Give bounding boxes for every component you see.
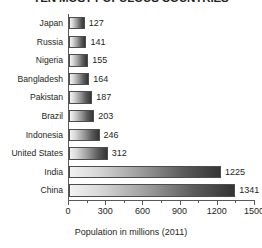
bar <box>69 36 86 48</box>
category-label: India <box>0 163 63 182</box>
bar-track: 1225 <box>69 163 262 182</box>
bar <box>69 147 108 159</box>
bar <box>69 184 235 196</box>
bar-row: United States312 <box>0 144 262 163</box>
bar-track: 312 <box>69 144 262 163</box>
x-axis-tick-label: 900 <box>172 206 187 216</box>
plot-area: Japan127Russia141Nigeria155Bangladesh164… <box>0 14 262 200</box>
x-axis-minor-tick <box>124 200 125 203</box>
bar <box>69 110 94 122</box>
x-axis-tick-label: 600 <box>135 206 150 216</box>
x-axis-minor-tick <box>87 200 88 203</box>
x-axis-tick-label: 1200 <box>207 206 227 216</box>
x-axis-tick-label: 0 <box>65 206 70 216</box>
bar-value-label: 187 <box>96 88 111 107</box>
category-label: Russia <box>0 33 63 52</box>
category-label: China <box>0 181 63 200</box>
bar-track: 141 <box>69 33 262 52</box>
bar-row: Bangladesh164 <box>0 70 262 89</box>
category-label: Pakistan <box>0 88 63 107</box>
bar-row: Japan127 <box>0 14 262 33</box>
bar-value-label: 203 <box>98 107 113 126</box>
bar-track: 203 <box>69 107 262 126</box>
bar <box>69 166 221 178</box>
bar-row: China1341 <box>0 181 262 200</box>
bar-value-label: 246 <box>104 126 119 145</box>
bar <box>69 17 85 29</box>
bar-value-label: 1225 <box>225 163 245 182</box>
bar-row: Indonesia246 <box>0 126 262 145</box>
x-axis-title: Population in millions (2011) <box>0 227 262 237</box>
bar-row: Brazil203 <box>0 107 262 126</box>
bar-row: Pakistan187 <box>0 88 262 107</box>
chart-title: TEN MOST POPULOUS COUNTRIES <box>0 0 262 6</box>
x-axis-tick-label: 300 <box>98 206 113 216</box>
bar-track: 127 <box>69 14 262 33</box>
bar-value-label: 155 <box>92 51 107 70</box>
bar-track: 1341 <box>69 181 262 200</box>
bar-value-label: 141 <box>90 33 105 52</box>
bar <box>69 91 92 103</box>
bar-row: Nigeria155 <box>0 51 262 70</box>
bar <box>69 54 88 66</box>
category-label: Indonesia <box>0 126 63 145</box>
x-axis-tick-label: 1500 <box>244 206 262 216</box>
bar-track: 164 <box>69 70 262 89</box>
category-label: Nigeria <box>0 51 63 70</box>
bar <box>69 129 100 141</box>
x-axis-minor-tick <box>198 200 199 203</box>
x-axis-tick <box>105 200 106 205</box>
bar-track: 187 <box>69 88 262 107</box>
x-axis-tick <box>254 200 255 205</box>
x-axis-tick <box>142 200 143 205</box>
x-axis-minor-tick <box>235 200 236 203</box>
bar-value-label: 164 <box>93 70 108 89</box>
bar-value-label: 127 <box>89 14 104 33</box>
x-axis-minor-tick <box>161 200 162 203</box>
x-axis-tick <box>180 200 181 205</box>
x-axis-tick <box>68 200 69 205</box>
bar-track: 246 <box>69 126 262 145</box>
bar-row: India1225 <box>0 163 262 182</box>
category-label: Bangladesh <box>0 70 63 89</box>
category-label: Japan <box>0 14 63 33</box>
bar-value-label: 312 <box>112 144 127 163</box>
category-label: Brazil <box>0 107 63 126</box>
category-label: United States <box>0 144 63 163</box>
bar-row: Russia141 <box>0 33 262 52</box>
bar-track: 155 <box>69 51 262 70</box>
x-axis-tick <box>217 200 218 205</box>
bar-value-label: 1341 <box>239 181 259 200</box>
bar-chart: TEN MOST POPULOUS COUNTRIES Japan127Russ… <box>0 0 262 248</box>
bar <box>69 73 89 85</box>
